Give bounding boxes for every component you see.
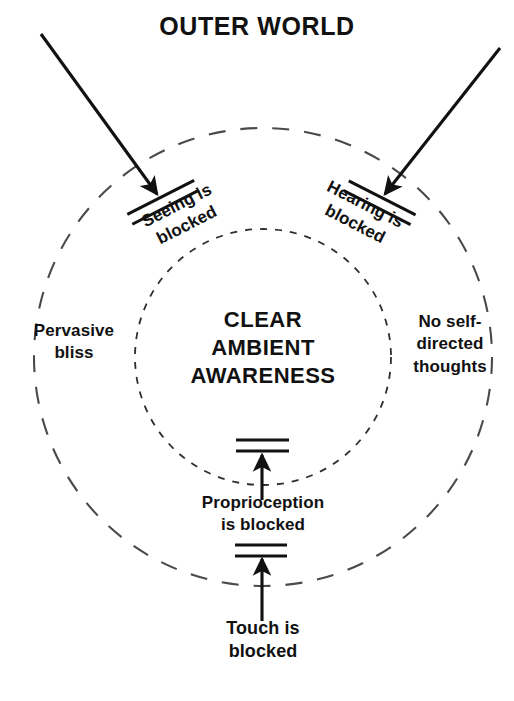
touch-barrier: [235, 545, 287, 556]
touch-blocked-label: Touch is blocked: [178, 617, 348, 663]
pervasive-bliss-label: Pervasive bliss: [14, 320, 134, 365]
clear-ambient-awareness-label: CLEAR AMBIENT AWARENESS: [157, 306, 369, 390]
proprioception-blocked-label: Proprioception is blocked: [163, 492, 363, 536]
no-self-directed-thoughts-label: No self- directed thoughts: [392, 311, 508, 378]
hearing-arrow: [385, 48, 500, 194]
diagram-canvas: OUTER WORLD Seeing is blocked Hearing is…: [0, 0, 514, 701]
seeing-arrow: [41, 34, 157, 194]
proprioception-barrier: [236, 440, 289, 451]
diagram-title: OUTER WORLD: [0, 12, 514, 40]
